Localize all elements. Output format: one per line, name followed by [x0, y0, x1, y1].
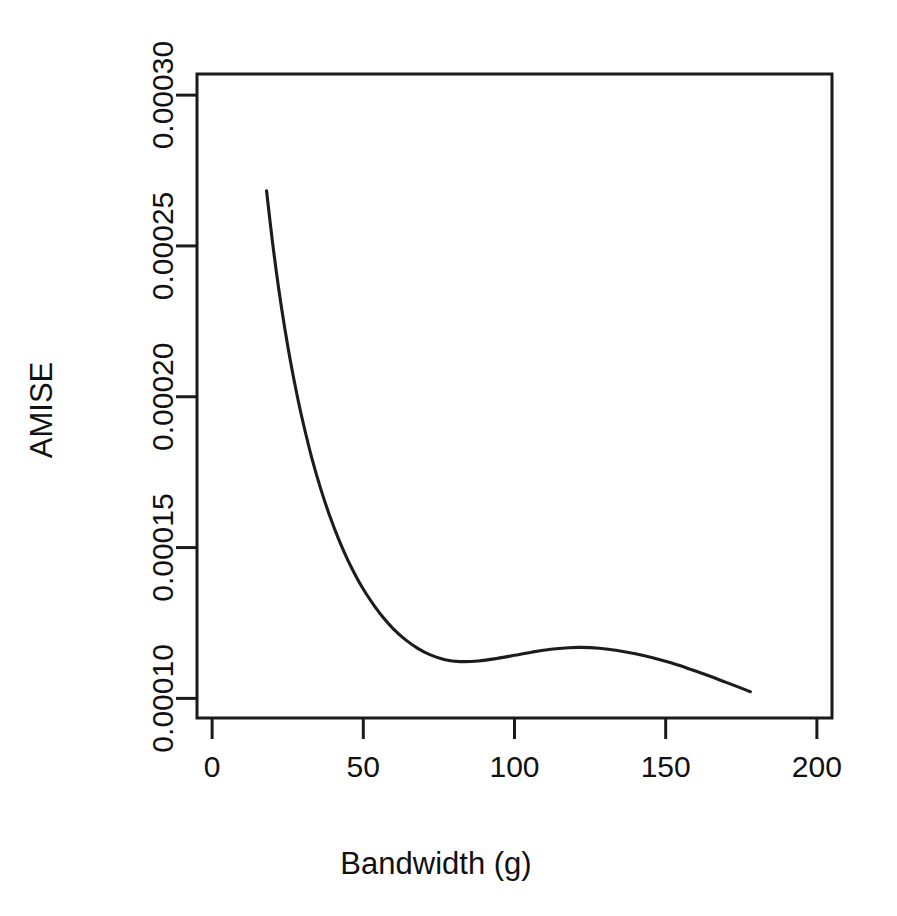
- data-series-group: [267, 191, 751, 692]
- y-tick-label: 0.00015: [147, 493, 180, 601]
- x-axis-title: Bandwidth (g): [340, 846, 531, 881]
- y-tick-label: 0.00020: [147, 343, 180, 451]
- x-axis-tick-labels: 050100150200: [204, 750, 842, 783]
- y-axis-title: AMISE: [24, 362, 59, 458]
- y-tick-label: 0.00010: [147, 644, 180, 752]
- x-tick-label: 100: [489, 750, 539, 783]
- chart-figure: 0.000100.000150.000200.000250.00030 0501…: [0, 0, 897, 916]
- plot-frame: [197, 74, 832, 718]
- x-axis-ticks: [212, 718, 817, 739]
- x-tick-label: 0: [204, 750, 221, 783]
- x-tick-label: 50: [347, 750, 380, 783]
- y-axis-tick-labels: 0.000100.000150.000200.000250.00030: [147, 41, 180, 753]
- x-tick-label: 150: [641, 750, 691, 783]
- y-tick-label: 0.00030: [147, 41, 180, 149]
- x-tick-label: 200: [792, 750, 842, 783]
- amise-line-chart: 0.000100.000150.000200.000250.00030 0501…: [0, 0, 897, 916]
- y-tick-label: 0.00025: [147, 192, 180, 300]
